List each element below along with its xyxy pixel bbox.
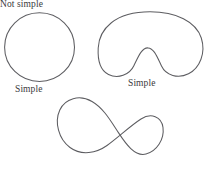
caption-bean: Simple: [128, 79, 156, 89]
caption-figure-eight: Not simple: [0, 0, 43, 10]
curve-classification-figure: Simple Simple Not simple: [0, 0, 208, 173]
caption-circle: Simple: [15, 85, 43, 95]
bean-curve-path: [98, 12, 203, 77]
circle-curve-path: [5, 13, 75, 82]
figure-eight-curve-path: [57, 98, 163, 155]
